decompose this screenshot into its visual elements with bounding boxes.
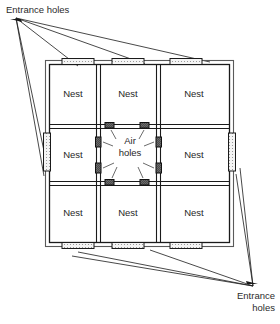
- cell-label-nest-r1c2: Nest: [184, 149, 204, 160]
- cell-label-nest-r1c0: Nest: [63, 149, 83, 160]
- nest-box-floorplan: [0, 0, 280, 324]
- cell-label-nest-r0c1: Nest: [118, 88, 138, 99]
- air-hole-top-left: [105, 123, 114, 129]
- entrance-hole-group-left: [44, 133, 51, 171]
- air-hole-left-lower: [96, 163, 102, 173]
- cell-label-air-holes: Air holes: [119, 135, 142, 158]
- entrance-hole-bottom-1: [62, 243, 94, 249]
- label-entrance-holes-bottom: Entrance holes: [219, 290, 275, 314]
- air-hole-bottom-left: [105, 180, 114, 186]
- entrance-hole-right-1: [229, 133, 236, 171]
- entrance-hole-bottom-2: [112, 243, 144, 249]
- cell-label-nest-r2c2: Nest: [184, 207, 204, 218]
- entrance-hole-top-3: [170, 59, 202, 65]
- entrance-hole-group-right: [229, 133, 236, 171]
- cell-label-nest-r2c1: Nest: [118, 207, 138, 218]
- air-hole-bottom-right: [140, 180, 149, 186]
- air-hole-right-upper: [156, 137, 162, 147]
- cell-label-nest-r0c2: Nest: [184, 88, 204, 99]
- cell-label-nest-r2c0: Nest: [63, 207, 83, 218]
- entrance-hole-top-1: [62, 59, 94, 65]
- entrance-hole-bottom-3: [170, 243, 202, 249]
- air-hole-top-right: [140, 123, 149, 129]
- air-hole-left-upper: [96, 137, 102, 147]
- cell-label-nest-r0c0: Nest: [63, 88, 83, 99]
- air-hole-right-lower: [156, 163, 162, 173]
- entrance-hole-top-2: [112, 59, 144, 65]
- label-entrance-holes-top: Entrance holes: [6, 4, 69, 16]
- entrance-hole-group-top: [62, 59, 202, 65]
- entrance-hole-left-1: [44, 133, 51, 171]
- entrance-hole-group-bottom: [62, 243, 202, 249]
- diagram-canvas: Entrance holes Entrance holes Nest Nest …: [0, 0, 280, 324]
